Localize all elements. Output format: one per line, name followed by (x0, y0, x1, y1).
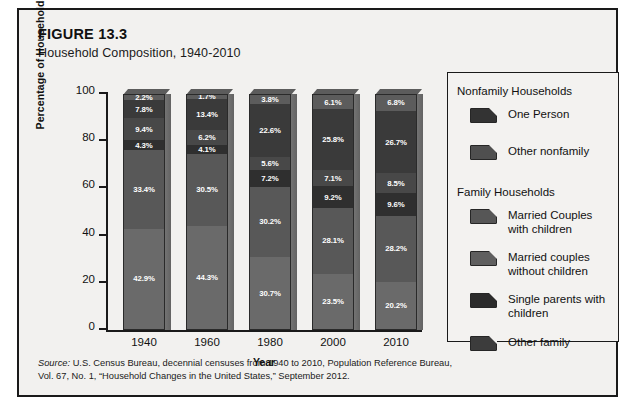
bar-segment: 9.6% (376, 193, 416, 215)
bar-segment: 30.5% (187, 154, 227, 225)
bar-segment: 20.2% (376, 282, 416, 329)
bar-segment: 9.4% (124, 118, 164, 140)
bar-segment: 7.2% (250, 170, 290, 187)
bar-segment: 4.1% (187, 145, 227, 155)
y-tick-label: 20 (82, 273, 95, 285)
bar-stack: 3.8%22.6%5.6%7.2%30.2%30.7% (249, 94, 291, 330)
legend-swatch (470, 336, 497, 351)
legend-item-label: Married Coupleswith children (508, 209, 592, 236)
bar-2000[interactable]: 6.1%25.8%7.1%9.2%28.1%23.5% (312, 94, 354, 330)
bar-segment: 9.2% (313, 186, 353, 208)
source-note: Source: U.S. Census Bureau, decennial ce… (38, 357, 468, 382)
legend-item[interactable]: Married Coupleswith children (470, 209, 592, 236)
y-tick-mark (99, 328, 108, 330)
bar-side-face (228, 94, 234, 330)
x-tick-label: 2000 (298, 336, 368, 348)
bar-stack: 6.1%25.8%7.1%9.2%28.1%23.5% (312, 94, 354, 330)
bar-segment: 22.6% (250, 104, 290, 157)
y-tick-mark (99, 92, 108, 94)
x-tick-label: 1980 (235, 336, 305, 348)
bar-segment: 6.1% (313, 95, 353, 109)
bar-side-face (291, 94, 297, 330)
chart-legend: Nonfamily Households Family Households O… (447, 72, 619, 342)
bar-1940[interactable]: 2.2%7.8%9.4%4.3%33.4%42.9% (123, 94, 165, 330)
y-tick-label: 100 (76, 84, 95, 96)
bar-segment: 44.3% (187, 226, 227, 329)
legend-item[interactable]: Other family (470, 336, 570, 351)
y-tick-mark (99, 139, 108, 141)
x-axis-line (106, 330, 422, 332)
bar-side-face (354, 94, 360, 330)
bar-segment: 4.3% (124, 140, 164, 150)
x-tick-label: 1960 (172, 336, 242, 348)
x-tick-label: 2010 (361, 336, 431, 348)
legend-item[interactable]: Other nonfamily (470, 145, 589, 160)
bar-segment: 30.2% (250, 187, 290, 258)
bar-segment: 28.1% (313, 208, 353, 274)
bar-segment: 26.7% (376, 111, 416, 173)
bar-segment: 33.4% (124, 150, 164, 228)
y-tick: 100 (99, 92, 108, 94)
y-tick-mark (99, 186, 108, 188)
figure-frame: FIGURE 13.3 Household Composition, 1940-… (17, 8, 618, 397)
bar-segment: 23.5% (313, 274, 353, 329)
y-tick: 80 (99, 139, 108, 141)
bar-1960[interactable]: 1.7%13.4%6.2%4.1%30.5%44.3% (186, 94, 228, 330)
legend-item[interactable]: Married coupleswithout children (470, 251, 590, 278)
bar-stack: 6.8%26.7%8.5%9.6%28.2%20.2% (375, 94, 417, 330)
y-axis-line (106, 92, 108, 332)
legend-swatch (470, 251, 497, 266)
y-tick: 20 (99, 281, 108, 283)
chart-plot-area: Percentage of Households 020406080100 2.… (77, 92, 422, 332)
bar-stack: 2.2%7.8%9.4%4.3%33.4%42.9% (123, 94, 165, 330)
bar-segment: 3.8% (250, 95, 290, 104)
bar-segment: 7.1% (313, 170, 353, 187)
legend-item[interactable]: Single parents withchildren (470, 293, 605, 320)
x-tick-label: 1940 (109, 336, 179, 348)
bar-2010[interactable]: 6.8%26.7%8.5%9.6%28.2%20.2% (375, 94, 417, 330)
bar-side-face (417, 94, 423, 330)
legend-swatch (470, 145, 497, 160)
legend-item-label: One Person (508, 108, 569, 122)
y-tick-label: 80 (82, 131, 95, 143)
y-tick-mark (99, 281, 108, 283)
legend-item[interactable]: One Person (470, 108, 569, 123)
bar-side-face (165, 94, 171, 330)
bar-segment: 5.6% (250, 157, 290, 170)
y-tick-label: 60 (82, 178, 95, 190)
y-tick-label: 40 (82, 226, 95, 238)
y-tick-mark (99, 234, 108, 236)
bar-stack: 1.7%13.4%6.2%4.1%30.5%44.3% (186, 94, 228, 330)
y-axis-label: Percentage of Households (34, 0, 46, 152)
y-tick-label: 0 (89, 320, 95, 332)
figure-title: Household Composition, 1940-2010 (38, 46, 241, 60)
legend-swatch (470, 209, 497, 224)
legend-item-label: Other nonfamily (508, 145, 589, 159)
legend-group-family-title: Family Households (457, 186, 555, 198)
source-text: U.S. Census Bureau, decennial censuses f… (38, 358, 452, 381)
bar-segment: 6.8% (376, 95, 416, 111)
bar-segment: 7.8% (124, 100, 164, 118)
y-tick: 40 (99, 234, 108, 236)
bar-segment: 13.4% (187, 99, 227, 130)
legend-item-label: Married coupleswithout children (508, 251, 590, 278)
y-tick: 60 (99, 186, 108, 188)
y-tick: 0 (99, 328, 108, 330)
legend-swatch (470, 293, 497, 308)
legend-swatch (470, 108, 497, 123)
bar-1980[interactable]: 3.8%22.6%5.6%7.2%30.2%30.7% (249, 94, 291, 330)
bar-segment: 6.2% (187, 130, 227, 144)
bar-segment: 30.7% (250, 257, 290, 329)
legend-group-nonfamily-title: Nonfamily Households (457, 85, 572, 97)
legend-item-label: Single parents withchildren (508, 293, 605, 320)
legend-item-label: Other family (508, 336, 570, 350)
bar-segment: 28.2% (376, 216, 416, 282)
bar-segment: 8.5% (376, 173, 416, 193)
bar-segment: 42.9% (124, 229, 164, 329)
bar-segment: 25.8% (313, 109, 353, 170)
figure-number: FIGURE 13.3 (38, 26, 127, 42)
source-label: Source: (38, 358, 70, 368)
